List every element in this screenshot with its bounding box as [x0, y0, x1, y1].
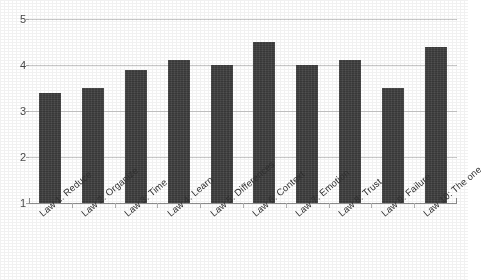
x-axis-right-cap	[456, 198, 457, 204]
y-tick-label: 3	[0, 105, 26, 117]
y-tick-label: 4	[0, 59, 26, 71]
bar-slot	[157, 19, 200, 203]
y-axis: 5 4 3 2 1	[0, 0, 26, 280]
bar-law-4-learn[interactable]	[168, 60, 190, 203]
bar-law-1-reduce[interactable]	[39, 93, 61, 203]
bar-law-2-organize[interactable]	[82, 88, 104, 203]
x-axis-left-cap	[29, 198, 30, 204]
bar-slot	[29, 19, 72, 203]
y-tick-label: 1	[0, 197, 26, 209]
bar-law-9-failure[interactable]	[382, 88, 404, 203]
x-axis-labels: Law 1: Reduce Law 2: Organize Law 3: Tim…	[29, 206, 457, 280]
y-tick-label: 5	[0, 13, 26, 25]
bar-slot	[371, 19, 414, 203]
y-tick-label: 2	[0, 151, 26, 163]
